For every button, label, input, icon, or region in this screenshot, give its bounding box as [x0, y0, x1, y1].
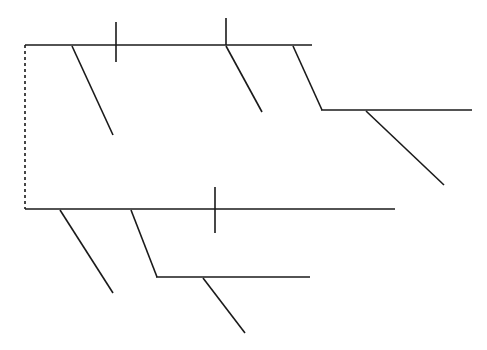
upper-spine-group	[25, 18, 472, 185]
upper-step-down-diagonal	[293, 46, 322, 110]
lower-secondary-branch-one	[203, 278, 245, 333]
diagram-canvas	[0, 0, 487, 350]
upper-branch-one	[72, 46, 113, 135]
branching-line-diagram	[0, 0, 487, 350]
lower-step-down-diagonal	[131, 210, 157, 277]
upper-branch-two	[226, 46, 262, 112]
upper-secondary-branch-one	[366, 111, 444, 185]
lower-spine-group	[25, 187, 395, 333]
lower-branch-one	[60, 210, 113, 293]
